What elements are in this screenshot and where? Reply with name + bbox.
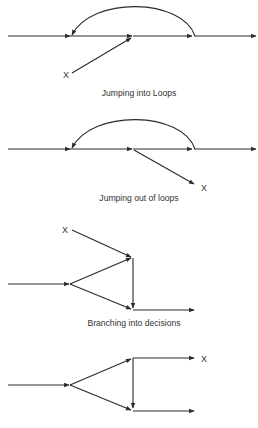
jump-out-arrow	[134, 150, 194, 184]
diagram-jumping-out-of-loops: X Jumping out of loops	[8, 120, 256, 203]
external-point-label: X	[62, 225, 68, 235]
caption-jumping-into-loops: Jumping into Loops	[102, 88, 177, 98]
diagram-branching-out-of-decisions: X	[8, 354, 207, 411]
caption-branching-into-decisions: Branching into decisions	[87, 318, 180, 328]
decision-branch-upper	[70, 258, 131, 284]
decision-branch-lower	[70, 385, 131, 410]
decision-branch-lower	[70, 284, 131, 309]
loop-back-arc	[72, 7, 195, 36]
external-point-label: X	[201, 354, 207, 364]
diagram-branching-into-decisions: X Branching into decisions	[8, 225, 194, 328]
diagram-jumping-into-loops: X Jumping into Loops	[8, 7, 256, 98]
loop-back-arc	[72, 120, 195, 149]
decision-branch-upper	[70, 359, 131, 385]
jump-in-arrow	[72, 38, 131, 73]
branch-in-arrow	[72, 230, 131, 257]
flow-diagrams-figure: X Jumping into Loops X Jumping out of lo…	[0, 0, 258, 428]
external-point-label: X	[201, 183, 207, 193]
caption-jumping-out-of-loops: Jumping out of loops	[99, 193, 178, 203]
external-point-label: X	[63, 70, 69, 80]
